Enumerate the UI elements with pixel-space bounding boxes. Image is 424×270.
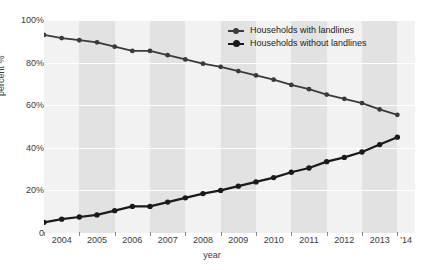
- data-point: [183, 195, 188, 200]
- data-point: [254, 73, 259, 78]
- data-point: [77, 214, 82, 219]
- data-point: [271, 175, 276, 180]
- y-tick-label: 20%: [26, 186, 44, 195]
- y-tick-label: 80%: [26, 59, 44, 68]
- data-point: [377, 142, 382, 147]
- data-point: [307, 87, 312, 92]
- y-axis-title: percent %: [0, 55, 6, 96]
- legend-item-without-landlines: Households without landlines: [228, 37, 367, 50]
- data-point: [377, 107, 382, 112]
- data-point: [289, 83, 294, 88]
- x-tick-label: 2004: [45, 236, 79, 245]
- data-point: [218, 64, 223, 69]
- data-point: [165, 53, 170, 58]
- x-axis-title: year: [0, 250, 424, 260]
- x-tick-label: 2012: [327, 236, 361, 245]
- legend-label-without-landlines: Households without landlines: [250, 37, 367, 50]
- x-tick-label: 2008: [186, 236, 220, 245]
- data-point: [201, 61, 206, 66]
- series-lines: [44, 20, 415, 233]
- data-point: [59, 216, 64, 221]
- data-point: [44, 33, 46, 38]
- data-point: [236, 183, 241, 188]
- data-point: [44, 220, 47, 225]
- data-point: [342, 155, 347, 160]
- data-point: [236, 69, 241, 74]
- x-tick-label: 2009: [221, 236, 255, 245]
- data-point: [289, 170, 294, 175]
- data-point: [95, 40, 100, 45]
- data-point: [130, 204, 135, 209]
- x-tick-label: 2005: [80, 236, 114, 245]
- data-point: [271, 77, 276, 82]
- line-chart: 020%40%60%80%100% 2004200520062007200820…: [0, 0, 424, 270]
- x-tick-label: '14: [389, 236, 423, 245]
- x-tick-label: 2007: [151, 236, 185, 245]
- y-tick-label: 100%: [21, 16, 44, 25]
- data-point: [183, 57, 188, 62]
- data-point: [324, 92, 329, 97]
- data-point: [324, 159, 329, 164]
- x-tick-label: 2011: [292, 236, 326, 245]
- data-point: [342, 96, 347, 101]
- data-point: [165, 199, 170, 204]
- data-point: [112, 44, 117, 49]
- data-point: [200, 191, 205, 196]
- x-tick-label: 2010: [257, 236, 291, 245]
- data-point: [147, 204, 152, 209]
- data-point: [253, 179, 258, 184]
- data-point: [306, 165, 311, 170]
- series-line: [44, 137, 397, 222]
- data-point: [112, 208, 117, 213]
- data-point: [77, 38, 82, 43]
- data-point: [59, 36, 64, 41]
- data-point: [395, 112, 400, 117]
- data-point: [218, 188, 223, 193]
- data-point: [130, 48, 135, 53]
- data-point: [359, 149, 364, 154]
- legend-item-with-landlines: Households with landlines: [228, 24, 367, 37]
- series-2: [44, 134, 400, 225]
- plot-area: [44, 20, 415, 233]
- chart-legend: Households with landlines Households wit…: [228, 24, 367, 50]
- data-point: [94, 212, 99, 217]
- legend-marker-with-landlines: [228, 26, 244, 35]
- legend-marker-without-landlines: [228, 39, 244, 48]
- legend-label-with-landlines: Households with landlines: [250, 24, 354, 37]
- data-point: [148, 48, 153, 53]
- data-point: [360, 101, 365, 106]
- x-tick-label: 2006: [115, 236, 149, 245]
- y-tick-label: 60%: [26, 101, 44, 110]
- y-tick-label: 40%: [26, 144, 44, 153]
- data-point: [395, 134, 400, 139]
